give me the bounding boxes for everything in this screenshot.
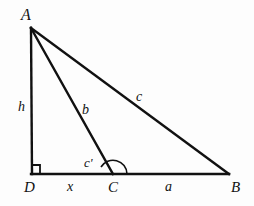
segment-label-hypotenuse-c: c (136, 90, 142, 104)
segment-ab-hypotenuse (31, 28, 229, 174)
geometry-canvas (0, 0, 254, 206)
segment-label-cevian-b: b (82, 103, 89, 117)
angle-arc-marker-c (101, 160, 127, 174)
segment-ad-altitude (31, 28, 32, 174)
angle-label-c-prime: c' (84, 156, 93, 169)
segment-label-altitude-h: h (18, 100, 25, 114)
segment-ac-cevian (31, 28, 113, 174)
geometry-figure: A D C B h b c c' x a (0, 0, 254, 206)
segment-label-base-left-x: x (67, 180, 73, 194)
vertex-label-a: A (21, 7, 31, 23)
segment-label-base-right-a: a (165, 180, 172, 194)
vertex-label-c: C (108, 180, 118, 195)
vertex-label-b: B (231, 180, 240, 195)
vertex-label-d: D (24, 180, 35, 195)
